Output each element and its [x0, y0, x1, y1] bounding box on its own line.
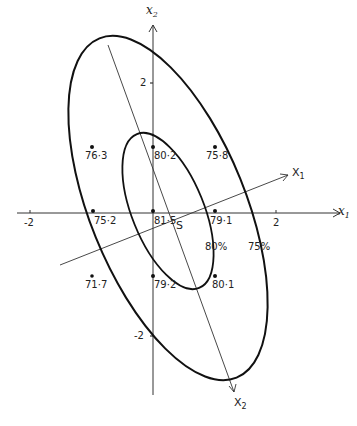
contour-diagram [0, 0, 357, 426]
contour-75-label: 75% [248, 242, 270, 252]
contour-80-label: 80% [205, 242, 227, 252]
point-label: 79·1 [210, 216, 232, 226]
x2-tick-2: 2 [140, 78, 146, 88]
point-label: 71·7 [85, 280, 107, 290]
point-label: 81·5 [154, 216, 176, 226]
point-label: 79·2 [154, 280, 176, 290]
point-label: 80·2 [154, 151, 176, 161]
point-label: 76·3 [85, 151, 107, 161]
rotated-x2-label: X2 [234, 396, 247, 409]
rotated-x1-label: X1 [292, 166, 305, 179]
x1-axis-label: x1 [338, 204, 350, 218]
x1-tick-neg2: -2 [24, 218, 34, 228]
x1-axis [17, 209, 340, 217]
contour-75 [27, 9, 309, 407]
x2-tick-neg2: -2 [134, 331, 144, 341]
point-label: 75·8 [206, 151, 228, 161]
x1-tick-2: 2 [273, 218, 279, 228]
point-label: 75·2 [94, 216, 116, 226]
x2-axis-label: x2 [146, 3, 158, 17]
point-label: 80·1 [212, 280, 234, 290]
stationary-point-label: S [176, 221, 183, 231]
